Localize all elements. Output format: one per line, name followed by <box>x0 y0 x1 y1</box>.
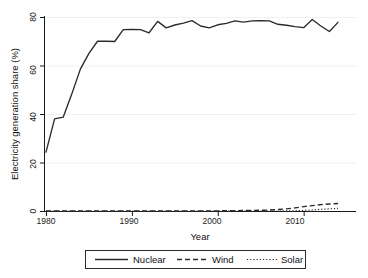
x-tick-label-2000: 2000 <box>203 216 222 226</box>
legend-label-nuclear: Nuclear <box>133 254 166 265</box>
x-tick-label-1990: 1990 <box>120 216 139 226</box>
y-tick-label-60: 60 <box>28 65 38 75</box>
x-tick-label-1980: 1980 <box>37 216 56 226</box>
y-tick-label-40: 40 <box>28 112 38 122</box>
legend-label-wind: Wind <box>212 254 234 265</box>
y-axis-title: Electricity generation share (%) <box>9 48 20 180</box>
chart-background <box>0 0 368 278</box>
y-tick-label-0: 0 <box>28 208 38 213</box>
line-chart: 80 60 40 20 0 Electricity generation sha… <box>0 0 368 278</box>
legend-label-solar: Solar <box>281 254 303 265</box>
y-tick-label-20: 20 <box>28 159 38 169</box>
chart-legend: Nuclear Wind Solar <box>86 251 306 269</box>
x-tick-label-2010: 2010 <box>286 216 305 226</box>
x-axis-title: Year <box>190 231 209 242</box>
chart-figure: 80 60 40 20 0 Electricity generation sha… <box>0 0 368 278</box>
y-tick-label-80: 80 <box>28 12 38 22</box>
